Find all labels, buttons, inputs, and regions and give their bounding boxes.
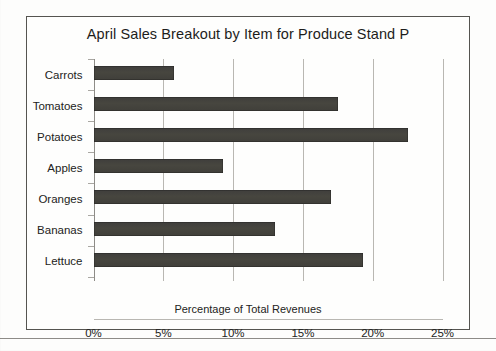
category-label-oranges: Oranges bbox=[38, 193, 82, 205]
y-tick-mark bbox=[88, 59, 94, 60]
bar-row-bananas: Bananas bbox=[94, 215, 443, 246]
category-label-carrots: Carrots bbox=[45, 69, 83, 81]
chart-frame: April Sales Breakout by Item for Produce… bbox=[26, 16, 470, 330]
gridline-25 bbox=[443, 59, 444, 281]
y-tick-mark bbox=[88, 215, 94, 216]
chart-title: April Sales Breakout by Item for Produce… bbox=[27, 26, 469, 42]
bar-lettuce[interactable] bbox=[94, 253, 363, 267]
bar-row-oranges: Oranges bbox=[94, 183, 443, 214]
y-tick-mark bbox=[88, 121, 94, 122]
bar-tomatoes[interactable] bbox=[94, 97, 338, 111]
category-label-tomatoes: Tomatoes bbox=[33, 100, 83, 112]
category-label-potatoes: Potatoes bbox=[37, 131, 82, 143]
y-tick-mark bbox=[88, 246, 94, 247]
x-axis-baseline bbox=[94, 319, 443, 320]
y-tick-mark bbox=[88, 183, 94, 184]
bar-row-lettuce: Lettuce bbox=[94, 246, 443, 277]
y-tick-mark bbox=[88, 90, 94, 91]
bar-row-potatoes: Potatoes bbox=[94, 121, 443, 152]
category-label-lettuce: Lettuce bbox=[45, 255, 83, 267]
bar-potatoes[interactable] bbox=[94, 128, 408, 142]
bar-carrots[interactable] bbox=[94, 66, 175, 80]
bar-bananas[interactable] bbox=[94, 222, 275, 236]
bar-row-carrots: Carrots bbox=[94, 59, 443, 90]
bar-row-apples: Apples bbox=[94, 152, 443, 183]
x-axis-title: Percentage of Total Revenues bbox=[27, 303, 469, 315]
plot-area: Carrots Tomatoes Potatoes Apples Oranges… bbox=[94, 59, 443, 277]
y-tick-mark bbox=[88, 152, 94, 153]
category-label-bananas: Bananas bbox=[37, 224, 82, 236]
page-divider-rule bbox=[0, 338, 496, 339]
bar-apples[interactable] bbox=[94, 159, 224, 173]
bar-row-tomatoes: Tomatoes bbox=[94, 90, 443, 121]
y-tick-mark bbox=[88, 277, 94, 278]
bar-oranges[interactable] bbox=[94, 190, 331, 204]
category-label-apples: Apples bbox=[47, 162, 82, 174]
